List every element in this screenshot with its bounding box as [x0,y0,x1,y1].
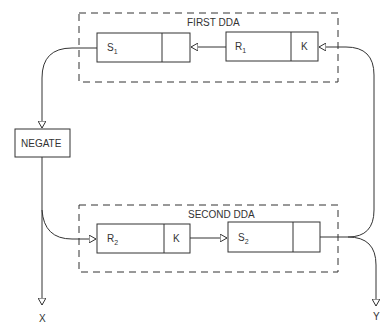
dda-diagram: FIRST DDA SECOND DDA S1 R1 K NEGATE R2 K… [0,0,390,331]
s1-to-negate-arrow [42,48,97,128]
k2-label: K [173,233,180,244]
feedback-to-k1-arrow [319,47,374,210]
first-dda-title: FIRST DDA [187,17,240,28]
negate-label: NEGATE [21,138,62,149]
k1-label: K [301,41,308,52]
second-dda-title: SECOND DDA [188,209,255,220]
y-output-label: Y [373,311,380,322]
x-output-label: X [39,313,46,324]
s2-to-y-arrow [348,237,376,306]
s2-output-line [320,210,374,237]
negate-to-r2-arrow [42,210,96,239]
